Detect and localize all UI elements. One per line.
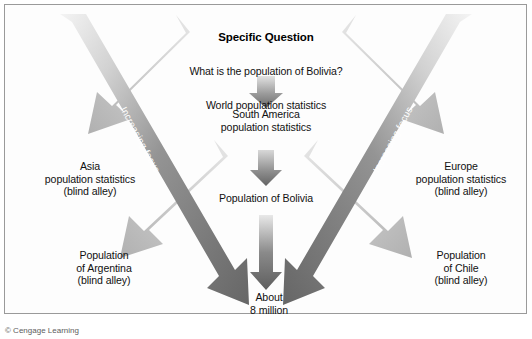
node-population-of-bolivia: Population of Bolivia [186, 192, 346, 205]
node-europe-blind-alley: Europe population statistics (blind alle… [396, 160, 526, 198]
node-south-america: South America population statistics [196, 108, 336, 133]
center-arrow-3 [250, 215, 282, 290]
node-asia-blind-alley: Asia population statistics (blind alley) [14, 160, 166, 198]
node-chile-blind-alley: Population of Chile (blind alley) [402, 249, 520, 287]
node-specific-question-line1: What is the population of Bolivia? [146, 65, 386, 78]
node-specific-question-title: Specific Question [146, 30, 386, 44]
copyright-credit: © Cengage Learning [5, 326, 79, 335]
node-about-8-million: About 8 million [222, 291, 316, 316]
center-arrow-2 [250, 150, 282, 186]
node-argentina-blind-alley: Population of Argentina (blind alley) [42, 249, 166, 287]
figure-container: Specific Question What is the population… [0, 0, 532, 339]
